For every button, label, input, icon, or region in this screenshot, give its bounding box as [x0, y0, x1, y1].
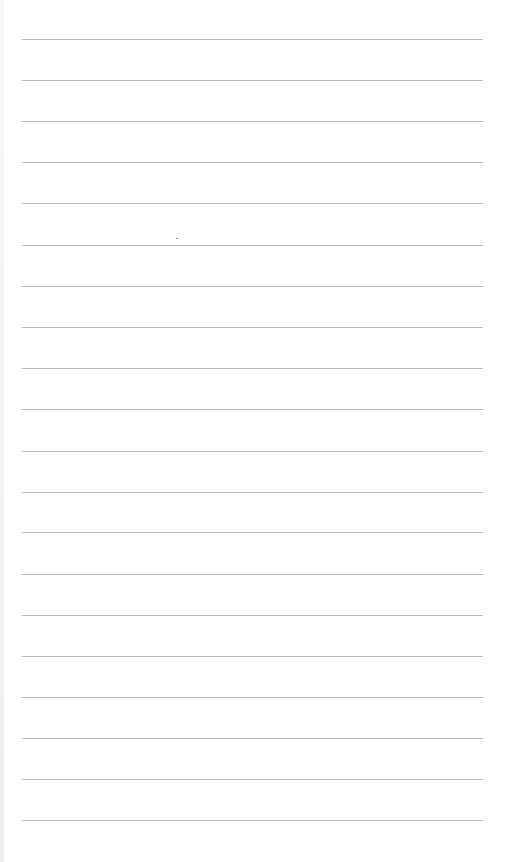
- ruled-line: [22, 39, 483, 40]
- paper-left-edge: [0, 0, 4, 862]
- ruled-line: [22, 286, 483, 287]
- ruled-line: [22, 368, 483, 369]
- ruled-line: [22, 80, 483, 81]
- ruled-line: [22, 162, 483, 163]
- ruled-line: [22, 532, 483, 533]
- paper-speck: [176, 238, 178, 239]
- ruled-line: [22, 203, 483, 204]
- ruled-line: [22, 121, 483, 122]
- ruled-line: [22, 738, 483, 739]
- ruled-line: [22, 574, 483, 575]
- ruled-line: [22, 779, 483, 780]
- ruled-line: [22, 615, 483, 616]
- ruled-line: [22, 697, 483, 698]
- ruled-line: [22, 409, 483, 410]
- ruled-line: [22, 451, 483, 452]
- ruled-line: [22, 656, 483, 657]
- ruled-line: [22, 820, 483, 821]
- ruled-line: [22, 245, 483, 246]
- ruled-line: [22, 327, 483, 328]
- ruled-line: [22, 492, 483, 493]
